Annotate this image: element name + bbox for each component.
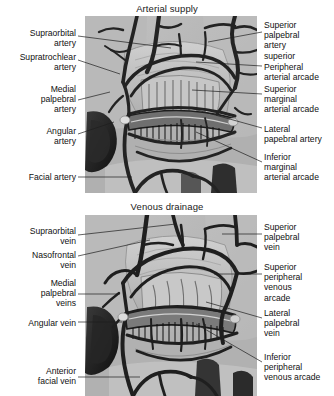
label-inferior-marginal-arterial-arcade: Inferior marginal arterial arcade — [264, 152, 334, 183]
label-superior-peripheral-venous-arcade: Superior peripheral venous arcade — [264, 262, 334, 303]
label-supraorbital-artery: Supraorbital artery — [12, 28, 76, 48]
panel-arterial-supply: Arterial supply — [0, 0, 334, 196]
panel-title-arterial: Arterial supply — [0, 3, 334, 14]
illustration-arterial-supply — [85, 16, 257, 193]
label-supraorbital-vein: Supraorbital vein — [10, 226, 76, 246]
label-superior-palpebral-artery-superior: Superior palpebral artery superior — [264, 20, 334, 61]
eyelid-vasculature-figure: Arterial supply — [0, 0, 334, 396]
label-peripheral-arterial-arcade: Peripheral arterial arcade — [264, 62, 334, 82]
label-superior-marginal-arterial-arcade: Superior marginal arterial arcade — [264, 84, 334, 115]
label-anterior-facial-vein: Anterior facial vein — [12, 366, 76, 386]
label-angular-artery: Angular artery — [16, 126, 76, 146]
panel-title-venous: Venous drainage — [0, 201, 334, 212]
label-medial-palpebral-veins: Medial palpebral veins — [16, 278, 76, 309]
label-angular-vein: Angular vein — [10, 318, 76, 328]
label-supratrochlear-artery: Supratrochlear artery — [2, 52, 76, 72]
illustration-venous-drainage — [85, 215, 257, 396]
label-lateral-palpebral-vein: Lateral palpebral vein — [264, 308, 334, 339]
label-facial-artery: Facial artery — [8, 172, 76, 182]
label-medial-palpebral-artery: Medial palpebral artery — [16, 84, 76, 115]
label-lateral-papebral-artery: Lateral papebral artery — [264, 124, 334, 144]
arterial-illustration-svg — [85, 16, 257, 193]
panel-venous-drainage: Venous drainage — [0, 196, 334, 396]
label-superior-palpebral-vein: Superior palpebral vein — [264, 222, 334, 253]
venous-illustration-svg — [85, 215, 257, 396]
label-nasofrontal-vein: Nasofrontal vein — [10, 250, 76, 270]
label-inferior-peripheral-venous-arcade: Inferior peripheral venous arcade — [264, 352, 334, 383]
